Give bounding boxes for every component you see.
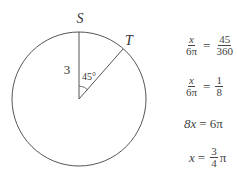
rhs: 6π	[210, 116, 223, 132]
circle-diagram: S T 3 45°	[0, 0, 160, 181]
equation-4: x = 3 4 π	[189, 146, 226, 169]
fraction: 45 360	[215, 34, 234, 57]
angle-arc	[79, 86, 88, 90]
equation-3: 8x = 6π	[184, 116, 223, 132]
fraction: x 6π	[185, 75, 198, 98]
equals-sign: =	[203, 79, 210, 95]
denominator: 360	[215, 46, 234, 57]
equation-1: x 6π = 45 360	[183, 34, 236, 57]
lhs: x	[189, 150, 195, 166]
denominator: 6π	[185, 87, 198, 98]
fraction: 1 8	[215, 75, 223, 98]
denominator: 8	[215, 87, 223, 98]
denominator: 4	[210, 158, 218, 169]
fraction: x 6π	[185, 34, 198, 57]
radius-label: 3	[64, 62, 71, 77]
point-label-s: S	[77, 11, 84, 26]
equals-sign: =	[203, 38, 210, 54]
fraction: 3 4	[210, 146, 218, 169]
angle-label: 45°	[82, 71, 96, 82]
point-label-t: T	[125, 33, 134, 48]
pi-symbol: π	[220, 150, 227, 166]
lhs: 8x	[184, 116, 196, 132]
equals-sign: =	[199, 116, 206, 132]
equals-sign: =	[198, 150, 205, 166]
denominator: 6π	[185, 46, 198, 57]
equation-2: x 6π = 1 8	[183, 75, 225, 98]
